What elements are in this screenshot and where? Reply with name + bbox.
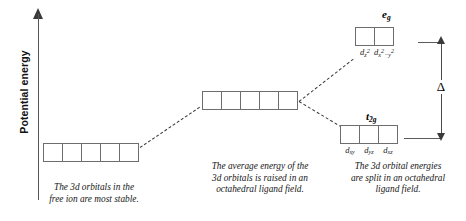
caption-line: octahedral ligand field. bbox=[176, 184, 344, 196]
eg-set-label-subscript: g bbox=[387, 13, 391, 22]
orbital-box bbox=[355, 27, 375, 46]
caption-line: 3d orbitals is raised in an bbox=[176, 173, 344, 185]
orbital-label-sub: yz bbox=[369, 148, 374, 155]
caption-free-ion: The 3d orbitals in the free ion are most… bbox=[14, 182, 174, 205]
caption-line: free ion are most stable. bbox=[14, 194, 174, 206]
orbital-label-dxy: dxy bbox=[345, 146, 355, 156]
orbital-cell-dx2y2: dx2−y2 bbox=[374, 27, 394, 58]
delta-arrowhead-up-icon bbox=[437, 36, 445, 44]
t2g-set-label: t2g bbox=[366, 111, 377, 123]
free-ion-orbital-boxes bbox=[43, 143, 139, 162]
orbital-box bbox=[340, 125, 360, 144]
orbital-cell-dxy: dxy bbox=[340, 125, 360, 156]
caption-line: The 3d orbital energies bbox=[330, 161, 466, 173]
eg-orbital-boxes: dz2 dx2−y2 bbox=[355, 27, 394, 58]
orbital-label-dx2-y2: dx2−y2 bbox=[374, 48, 394, 58]
caption-split-energies: The 3d orbital energies are split in an … bbox=[330, 161, 466, 196]
orbital-box bbox=[221, 91, 241, 110]
eg-set-label: eg bbox=[382, 9, 391, 21]
correlation-line-free-to-average bbox=[140, 107, 200, 148]
orbital-box bbox=[202, 91, 222, 110]
orbital-label-sub: xz bbox=[388, 148, 393, 155]
orbital-box bbox=[100, 143, 120, 162]
orbital-label-tail-sup: 2 bbox=[391, 47, 394, 54]
delta-symbol-label: Δ bbox=[430, 80, 452, 94]
orbital-cell-dyz: dyz bbox=[359, 125, 379, 156]
orbital-cell-dxz: dxz bbox=[378, 125, 398, 156]
y-axis-label: Potential energy bbox=[18, 37, 30, 147]
caption-average-energy: The average energy of the 3d orbitals is… bbox=[176, 161, 344, 196]
average-energy-orbital-boxes bbox=[202, 91, 298, 110]
orbital-box bbox=[259, 91, 279, 110]
orbital-label-sup: 2 bbox=[367, 47, 370, 54]
orbital-box bbox=[119, 143, 139, 162]
t2g-orbital-boxes: dxy dyz dxz bbox=[340, 125, 398, 156]
orbital-label-tail: −y bbox=[384, 51, 391, 58]
orbital-box bbox=[62, 143, 82, 162]
orbital-label-dz2: dz2 bbox=[360, 48, 370, 58]
caption-line: The average energy of the bbox=[176, 161, 344, 173]
orbital-box bbox=[359, 125, 379, 144]
orbital-box bbox=[378, 125, 398, 144]
orbital-box bbox=[374, 27, 394, 46]
orbital-label-sub: xy bbox=[349, 148, 355, 155]
orbital-label-dxz: dxz bbox=[383, 146, 392, 156]
crystal-field-splitting-diagram: Potential energy eg dz2 dx2−y2 t2g bbox=[0, 0, 466, 221]
caption-line: The 3d orbitals in the bbox=[14, 182, 174, 194]
orbital-label-dyz: dyz bbox=[364, 146, 373, 156]
y-axis-line bbox=[38, 14, 39, 200]
caption-line: ligand field. bbox=[330, 184, 466, 196]
orbital-box bbox=[240, 91, 260, 110]
t2g-set-label-subscript: 2g bbox=[369, 115, 377, 124]
orbital-cell-dz2: dz2 bbox=[355, 27, 375, 58]
correlation-line-average-to-eg bbox=[299, 59, 354, 102]
caption-line: are split in an octahedral bbox=[330, 173, 466, 185]
delta-arrowhead-down-icon bbox=[437, 133, 445, 141]
orbital-box bbox=[43, 143, 63, 162]
orbital-box bbox=[278, 91, 298, 110]
orbital-box bbox=[81, 143, 101, 162]
